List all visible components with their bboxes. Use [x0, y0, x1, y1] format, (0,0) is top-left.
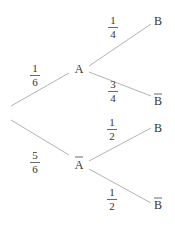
node-label: B — [154, 198, 162, 212]
edge-root-to-abar — [11, 120, 69, 155]
node-label: B — [154, 94, 162, 108]
edge-root-to-a — [11, 73, 69, 106]
fraction-a-to-b: 1 4 — [108, 14, 118, 40]
fraction-a-to-bbar: 3 4 — [108, 78, 118, 104]
edge-abar-to-b — [89, 128, 151, 161]
edge-a-to-bbar — [89, 72, 151, 96]
node-b-given-a: B — [154, 14, 162, 28]
denominator: 6 — [32, 163, 38, 175]
denominator: 4 — [110, 92, 116, 104]
probability-tree: 1 6 5 6 1 4 3 4 1 2 1 2 A A B B — [0, 0, 175, 228]
fraction-abar-to-b: 1 2 — [107, 116, 117, 142]
node-label: B — [154, 14, 162, 28]
denominator: 4 — [110, 28, 116, 40]
numerator: 5 — [32, 149, 38, 161]
edge-abar-to-bbar — [89, 169, 151, 203]
node-label: A — [75, 158, 84, 172]
node-b-complement-given-a-complement: B — [154, 198, 162, 212]
numerator: 1 — [109, 116, 115, 128]
fraction-root-to-a: 1 6 — [30, 62, 40, 88]
node-a: A — [75, 62, 84, 76]
denominator: 2 — [109, 200, 115, 212]
node-a-complement: A — [75, 157, 84, 172]
numerator: 1 — [109, 186, 115, 198]
node-label: B — [154, 121, 162, 135]
fraction-abar-to-bbar: 1 2 — [107, 186, 117, 212]
numerator: 3 — [110, 78, 116, 90]
fraction-root-to-abar: 5 6 — [30, 149, 40, 175]
node-label: A — [75, 62, 84, 76]
denominator: 6 — [32, 76, 38, 88]
node-b-complement-given-a: B — [154, 94, 162, 108]
numerator: 1 — [32, 62, 38, 74]
edge-a-to-b — [89, 24, 151, 66]
numerator: 1 — [110, 14, 116, 26]
denominator: 2 — [109, 130, 115, 142]
node-b-given-a-complement: B — [154, 121, 162, 135]
